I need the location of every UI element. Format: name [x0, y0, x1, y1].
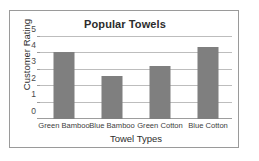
- bar-group: Blue Cotton: [184, 37, 232, 119]
- chart-title: Popular Towels: [10, 18, 240, 30]
- bar-group: Blue Bamboo: [88, 37, 136, 119]
- y-tick-label-2: 2: [31, 73, 36, 82]
- y-axis-title: Customer Rating: [21, 9, 32, 101]
- bar: [198, 47, 219, 119]
- x-tick-label: Blue Bamboo: [89, 122, 135, 130]
- plot-area: 012345 Green BambooBlue BambooGreen Cott…: [40, 37, 232, 119]
- bar: [54, 52, 75, 119]
- bar-group: Green Bamboo: [40, 37, 88, 119]
- x-tick-label: Green Cotton: [137, 122, 183, 130]
- y-tick-label-4: 4: [31, 41, 36, 50]
- x-axis-title: Towel Types: [40, 133, 232, 144]
- y-tick-label-3: 3: [31, 57, 36, 66]
- y-tick-label-0: 0: [31, 106, 36, 115]
- x-tick-label: Blue Cotton: [188, 122, 228, 130]
- x-tick-label: Green Bamboo: [38, 122, 90, 130]
- y-tick-label-1: 1: [31, 90, 36, 99]
- chart-frame: Popular Towels Customer Rating 012345 Gr…: [9, 10, 239, 148]
- bar: [150, 66, 171, 119]
- bar-series: Green BambooBlue BambooGreen CottonBlue …: [40, 37, 232, 119]
- bar: [102, 76, 123, 119]
- bar-group: Green Cotton: [136, 37, 184, 119]
- y-tick-label-5: 5: [31, 24, 36, 33]
